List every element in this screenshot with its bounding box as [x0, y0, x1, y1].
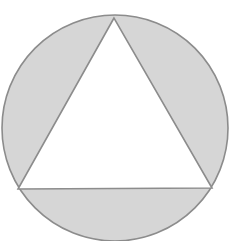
- inscribed-triangle-diagram: [0, 0, 233, 241]
